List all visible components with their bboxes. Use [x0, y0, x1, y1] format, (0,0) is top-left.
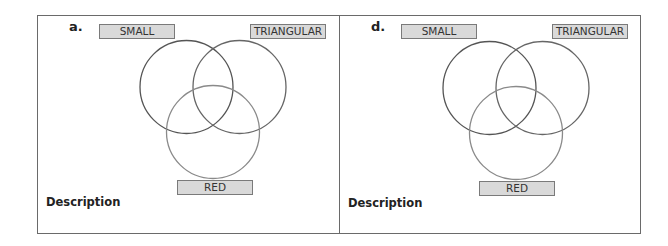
description-label: Description [46, 195, 120, 209]
venn-panel-d: d. SMALL TRIANGULAR RED Description [339, 15, 641, 234]
venn-panel-a: a. SMALL TRIANGULAR RED Description [37, 15, 339, 234]
label-red: RED [177, 180, 253, 195]
circle-small [140, 41, 233, 134]
circle-small [443, 42, 536, 135]
circle-triangular [496, 42, 589, 135]
description-label: Description [348, 196, 422, 210]
circle-red [470, 87, 563, 180]
label-red: RED [479, 181, 555, 196]
circle-red [167, 86, 260, 179]
circle-triangular [193, 41, 286, 134]
